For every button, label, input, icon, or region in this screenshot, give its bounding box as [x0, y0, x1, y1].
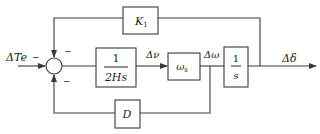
input-label: ΔTe: [5, 51, 27, 64]
delta-delta-label: Δδ: [281, 52, 297, 65]
block-diagram: ΔTe − − − 1 2Hs Δν ωs Δω 1 s Δδ K1: [0, 0, 320, 134]
damping-label: D: [122, 108, 132, 121]
delta-omega-label: Δω: [203, 49, 219, 60]
integrator-block: 1 s: [224, 47, 248, 87]
integrator-numerator: 1: [233, 53, 239, 64]
input-sign: −: [32, 52, 40, 62]
omega-s-label: ω: [176, 61, 184, 72]
omega-s-block: ωs: [168, 53, 200, 80]
inertia-numerator: 1: [113, 52, 120, 65]
inertia-block: 1 2Hs: [96, 48, 136, 87]
bottom-sign: −: [63, 76, 71, 86]
delta-nu-label: Δν: [145, 49, 159, 60]
input-signal: ΔTe −: [5, 51, 45, 66]
integrator-denominator: s: [233, 70, 238, 81]
inertia-denominator: 2Hs: [104, 71, 128, 84]
top-sign: −: [64, 46, 72, 56]
